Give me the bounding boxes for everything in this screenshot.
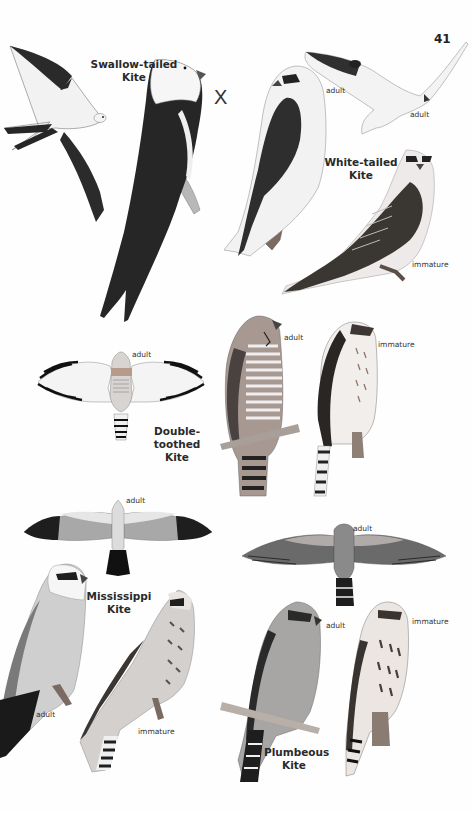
double-toothed-kite-immature-illustration [314, 322, 377, 496]
age-label-immature: immature [378, 340, 415, 349]
species-label-white-tailed-kite: White-tailed Kite [316, 156, 406, 182]
bird-illustrations: X [0, 0, 471, 813]
species-name-line1: Double-toothed [132, 425, 222, 451]
double-toothed-kite-adult-illustration [220, 316, 300, 496]
page-number: 41 [434, 32, 451, 46]
mississippi-kite-immature-illustration [80, 590, 195, 772]
species-label-double-toothed-kite: Double-toothed Kite [132, 425, 222, 464]
age-label-immature: immature [138, 727, 175, 736]
species-name-line2: Kite [132, 451, 222, 464]
age-label-adult: adult [132, 350, 151, 359]
age-label-adult: adult [326, 86, 345, 95]
age-label-adult: adult [284, 333, 303, 342]
plumbeous-kite-flying-illustration [242, 524, 446, 606]
age-label-adult: adult [326, 621, 345, 630]
species-name-line2: Kite [84, 603, 154, 616]
age-label-adult: adult [410, 110, 429, 119]
x-mark: X [214, 86, 227, 108]
species-name-line1: Plumbeous [264, 746, 324, 759]
age-label-adult: adult [353, 524, 372, 533]
species-name-line2: Kite [316, 169, 406, 182]
plumbeous-kite-immature-illustration [346, 602, 409, 776]
species-name-line2: Kite [84, 71, 184, 84]
swallow-tailed-kite-perched-illustration [100, 60, 206, 322]
age-label-adult: adult [126, 496, 145, 505]
mississippi-kite-flying-illustration [24, 500, 212, 576]
species-name-line1: White-tailed [316, 156, 406, 169]
white-tailed-kite-perched-illustration [224, 66, 326, 256]
species-name-line1: Swallow-tailed [84, 58, 184, 71]
age-label-immature: immature [412, 617, 449, 626]
field-guide-page: X [0, 0, 471, 813]
age-label-immature: immature [412, 260, 449, 269]
species-label-swallow-tailed-kite: Swallow-tailed Kite [84, 58, 184, 84]
species-label-mississippi-kite: Mississippi Kite [84, 590, 154, 616]
species-name-line1: Mississippi [84, 590, 154, 603]
species-name-line2: Kite [264, 759, 324, 772]
age-label-adult: adult [36, 710, 55, 719]
species-label-plumbeous-kite: Plumbeous Kite [264, 746, 324, 772]
mississippi-kite-adult-illustration [0, 564, 88, 758]
